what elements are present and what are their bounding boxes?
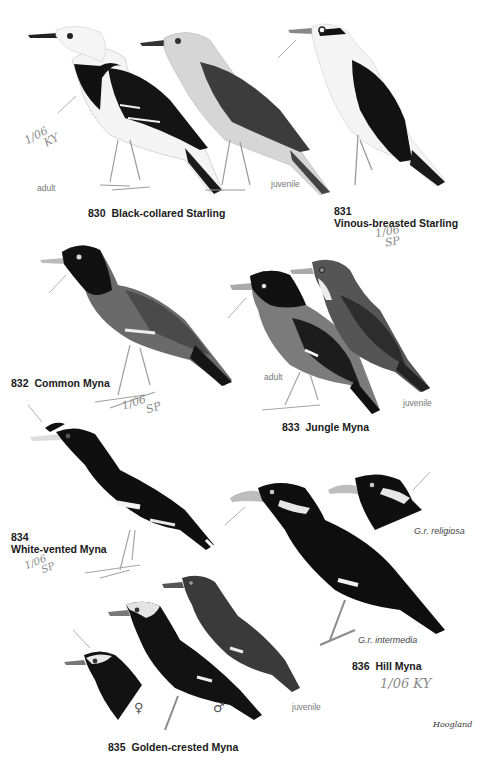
subspecies-label-intermedia: G.r. intermedia	[358, 635, 417, 645]
age-label-830-juvenile: juvenile	[271, 179, 300, 189]
species-name: Black-collared Starling	[112, 207, 226, 219]
pencil-note-836: 1/06 KY	[380, 677, 431, 690]
age-label-830-adult: adult	[37, 183, 55, 193]
species-number: 832	[11, 377, 29, 389]
species-name: Common Myna	[35, 377, 110, 389]
species-label-834: 834 White-vented Myna	[11, 531, 107, 555]
bird-836-religiosa-head	[328, 474, 422, 530]
species-label-832: 832Common Myna	[11, 377, 110, 389]
species-label-830: 830Black-collared Starling	[88, 207, 225, 219]
species-number: 833	[282, 421, 300, 433]
species-label-836: 836Hill Myna	[352, 660, 422, 672]
female-symbol-icon: ♀	[134, 700, 144, 715]
species-number: 834	[11, 531, 107, 543]
species-number: 831	[334, 205, 458, 217]
species-name: Hill Myna	[376, 660, 422, 672]
male-symbol-icon: ♂	[213, 700, 225, 715]
age-label-833-juvenile: juvenile	[403, 398, 432, 408]
species-name: White-vented Myna	[11, 543, 107, 555]
species-number: 836	[352, 660, 370, 672]
species-label-833: 833Jungle Myna	[282, 421, 369, 433]
species-number: 835	[108, 741, 126, 753]
pencil-note-831: 1/06 SP	[374, 224, 402, 250]
artist-signature: Hoogland	[433, 721, 472, 729]
species-number: 830	[88, 207, 106, 219]
bird-831	[288, 24, 445, 186]
bird-835-female-head	[64, 652, 142, 721]
illustration-plate: 830Black-collared Starling 831 Vinous-br…	[0, 0, 479, 761]
subspecies-label-religiosa: G.r. religiosa	[414, 526, 465, 536]
species-name: Golden-crested Myna	[132, 741, 239, 753]
age-label-833-adult: adult	[264, 372, 282, 382]
species-name: Jungle Myna	[306, 421, 370, 433]
species-label-835: 835Golden-crested Myna	[108, 741, 238, 753]
age-label-835-juvenile: juvenile	[292, 702, 321, 712]
